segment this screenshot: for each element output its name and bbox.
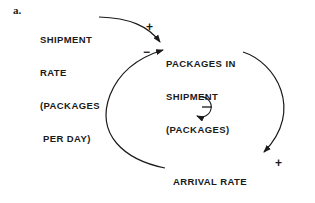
node-shipment-rate: SHIPMENT RATE (PACKAGES PER DAY) (40, 12, 100, 155)
node-line: PER DAY) (40, 133, 100, 144)
link-packages-to-arrival (243, 52, 284, 152)
node-line: SHIPMENT (40, 34, 100, 45)
node-line: (PACKAGES (40, 100, 100, 111)
polarity-plus-shipment: + (146, 21, 153, 33)
node-line: ARRIVAL RATE (173, 176, 247, 187)
node-line: RATE (40, 67, 100, 78)
polarity-minus-feedback: − (143, 46, 150, 58)
node-packages-in-shipment: PACKAGES IN SHIPMENT (PACKAGES) (166, 36, 236, 146)
polarity-plus-arrival: + (275, 157, 282, 169)
node-line: (PACKAGES) (166, 124, 236, 135)
panel-label: a. (13, 4, 21, 16)
node-line: SHIPMENT (166, 91, 236, 102)
node-arrival-rate: ARRIVAL RATE ( PACKAGES PER DAY) (173, 154, 247, 203)
link-arrival-to-packages (106, 50, 165, 168)
node-line: PACKAGES IN (166, 58, 236, 69)
